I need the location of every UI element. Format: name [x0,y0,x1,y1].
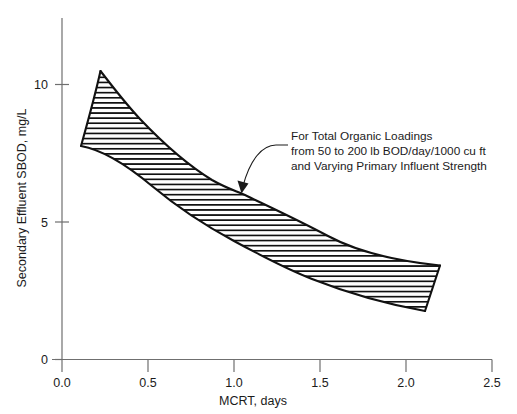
x-tick-label-0.5: 0.5 [139,376,156,390]
annotation-line-2: from 50 to 200 lb BOD/day/1000 cu ft [291,144,486,158]
x-tick-label-1.5: 1.5 [311,376,328,390]
y-tick-label-10: 10 [34,78,48,92]
y-axis-title: Secondary Effluent SBOD, mg/L [15,108,29,287]
chart-figure: 0 5 10 0.0 0.5 1.0 1.5 2.0 2.5 MCRT, day… [0,0,517,414]
y-tick-label-0: 0 [41,353,48,367]
annotation-leader-line [243,145,288,186]
x-tick-label-2.5: 2.5 [483,376,500,390]
x-axis-title: MCRT, days [219,394,287,408]
x-tick-label-0.0: 0.0 [53,376,70,390]
x-tick-label-2.0: 2.0 [397,376,414,390]
annotation-line-3: and Varying Primary Influent Strength [291,159,487,173]
y-tick-label-5: 5 [41,216,48,230]
annotation-line-1: For Total Organic Loadings [291,129,433,143]
x-tick-label-1.0: 1.0 [225,376,242,390]
chart-canvas: 0 5 10 0.0 0.5 1.0 1.5 2.0 2.5 MCRT, day… [0,0,517,414]
